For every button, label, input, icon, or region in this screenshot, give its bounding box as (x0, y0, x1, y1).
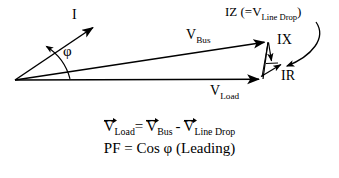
eq1-operator-2: - (176, 118, 181, 134)
label-iz-subscript: Line Drop (262, 12, 298, 22)
vector-term-v-bus: VBus (146, 116, 172, 138)
ix-foot-tick (266, 63, 278, 64)
label-v-bus-symbol: V (186, 27, 196, 42)
label-ir: IR (281, 69, 295, 83)
label-v-load-symbol: V (210, 83, 220, 98)
eq1-v3-subscript: Line Drop (194, 126, 235, 137)
label-ix: IX (277, 33, 292, 47)
equation-block: VLoad=VBus-VLine Drop PF = Cos φ (Leadin… (0, 116, 339, 159)
label-v-load: VLoad (210, 84, 239, 101)
iz-leader-arrow (287, 22, 320, 66)
iz-triangle-edge (262, 43, 268, 77)
equation-line-2: PF = Cos φ (Leading) (0, 138, 339, 158)
vector-term-v-load: VLoad (104, 116, 135, 138)
eq1-v3-symbol: V (184, 118, 195, 134)
label-v-load-subscript: Load (220, 91, 239, 101)
label-iz-suffix: ) (297, 4, 301, 19)
eq1-v1-symbol: V (104, 118, 115, 134)
label-iz-prefix: IZ (=V (225, 4, 262, 19)
vector-v-bus (15, 42, 265, 80)
eq1-operator-1: = (135, 118, 143, 134)
eq1-v2-symbol: V (146, 118, 157, 134)
label-v-bus-subscript: Bus (196, 35, 210, 45)
label-current-i: I (72, 8, 77, 22)
vector-ix (269, 43, 272, 62)
label-angle-phi: φ (63, 44, 72, 59)
eq1-v2-subscript: Bus (157, 126, 172, 137)
phasor-diagram-figure: I φ VBus VLoad IX IR IZ (=VLine Drop) VL… (0, 0, 339, 178)
label-v-bus: VBus (186, 28, 211, 45)
vector-v-load (15, 79, 259, 80)
vector-current-I (15, 28, 93, 81)
eq1-v1-subscript: Load (115, 126, 135, 137)
equation-line-1: VLoad=VBus-VLine Drop (0, 116, 339, 138)
label-iz-line-drop: IZ (=VLine Drop) (225, 5, 301, 21)
vector-term-v-line-drop: VLine Drop (184, 116, 236, 138)
